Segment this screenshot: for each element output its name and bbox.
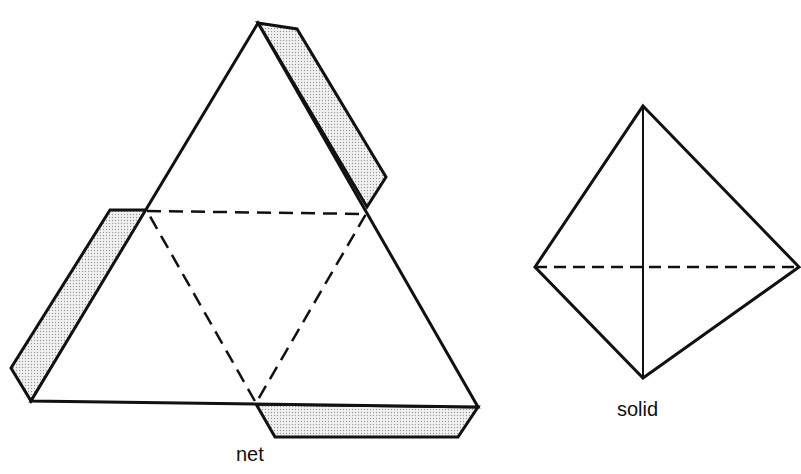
solid-outline bbox=[535, 106, 799, 378]
tab-bottom bbox=[256, 404, 478, 437]
net-diagram bbox=[11, 23, 478, 437]
net-label: net bbox=[236, 443, 264, 466]
net-outer-triangle bbox=[31, 23, 478, 407]
solid-label: solid bbox=[617, 398, 658, 421]
tetrahedron-diagram bbox=[0, 0, 801, 474]
solid-diagram bbox=[535, 106, 799, 378]
